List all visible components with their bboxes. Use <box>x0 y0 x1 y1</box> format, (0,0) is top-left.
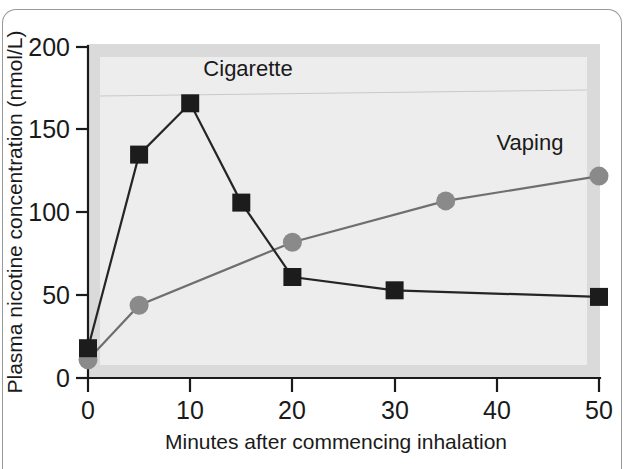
data-point-cigarette-0 <box>79 339 97 357</box>
y-axis-ticks <box>76 47 88 378</box>
data-point-cigarette-15 <box>232 194 250 212</box>
data-point-vaping-5 <box>130 296 149 315</box>
y-tick-label-100: 100 <box>28 198 70 226</box>
x-tick-label-50: 50 <box>585 396 613 424</box>
data-point-vaping-20 <box>283 233 302 252</box>
data-point-cigarette-5 <box>130 146 148 164</box>
data-point-cigarette-10 <box>181 94 199 112</box>
plot-background-inner <box>100 57 587 365</box>
data-point-vaping-50 <box>590 167 609 186</box>
x-axis-title: Minutes after commencing inhalation <box>165 430 507 453</box>
y-axis-title: Plasma nicotine concentration (nmol/L) <box>3 30 26 393</box>
data-point-vaping-35 <box>436 191 455 210</box>
annotation-cigarette: Cigarette <box>203 56 292 81</box>
data-point-cigarette-20 <box>283 268 301 286</box>
y-tick-label-50: 50 <box>42 281 70 309</box>
data-point-cigarette-50 <box>590 288 608 306</box>
annotation-vaping: Vaping <box>497 130 564 155</box>
y-tick-label-200: 200 <box>28 33 70 61</box>
y-tick-label-150: 150 <box>28 115 70 143</box>
x-tick-label-20: 20 <box>278 396 306 424</box>
x-tick-label-0: 0 <box>81 396 95 424</box>
x-tick-label-40: 40 <box>483 396 511 424</box>
data-point-cigarette-30 <box>386 281 404 299</box>
x-tick-label-30: 30 <box>381 396 409 424</box>
x-axis-ticks <box>88 378 599 392</box>
y-tick-label-0: 0 <box>56 364 70 392</box>
x-tick-label-10: 10 <box>176 396 204 424</box>
